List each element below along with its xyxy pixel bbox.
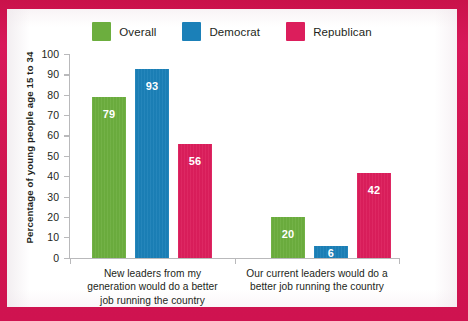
bar-value-label: 42 — [357, 184, 391, 196]
bar-value-label: 56 — [178, 155, 212, 167]
bar-overall-group2[interactable]: 20 — [271, 217, 305, 258]
category-label-line: generation would do a better — [70, 280, 235, 293]
poster-frame: OverallDemocratRepublican Percentage of … — [0, 0, 468, 321]
bar-value-label: 20 — [271, 228, 305, 240]
bar-overall-group1[interactable]: 79 — [92, 97, 126, 258]
bar-democrat-group2[interactable]: 6 — [314, 246, 348, 258]
chart-card: OverallDemocratRepublican Percentage of … — [7, 9, 457, 307]
category-label-line: job running the country — [70, 294, 235, 307]
bar-value-label: 6 — [314, 247, 348, 259]
category-label-line: Our current leaders would do a — [235, 267, 399, 280]
bar-democrat-group1[interactable]: 93 — [135, 69, 169, 258]
bar-value-label: 79 — [92, 108, 126, 120]
category-label-line: New leaders from my — [70, 267, 235, 280]
category-label-line: better job running the country — [235, 280, 399, 293]
bar-republican-group2[interactable]: 42 — [357, 173, 391, 259]
bar-texture — [135, 69, 169, 258]
x-axis-category-label-1: New leaders from mygeneration would do a… — [70, 267, 235, 307]
x-axis-category-label-2: Our current leaders would do abetter job… — [235, 267, 399, 294]
bar-value-label: 93 — [135, 80, 169, 92]
plot-area: Percentage of young people age 15 to 34 … — [7, 9, 457, 307]
bar-republican-group1[interactable]: 56 — [178, 144, 212, 258]
bars-layer: 79935620642 — [7, 9, 457, 258]
x-axis-group-tick — [235, 258, 236, 264]
x-axis-group-tick — [70, 258, 71, 264]
x-axis-group-tick — [399, 258, 400, 264]
bar-texture — [92, 97, 126, 258]
